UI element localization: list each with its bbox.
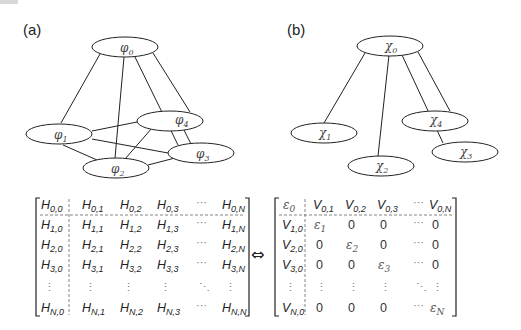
matrix_H-cell-2-0: H2,0 <box>41 238 63 254</box>
matrix_V-cell-2-5: 0 <box>432 238 439 252</box>
matrix_H-cell-4-0: ⋮ <box>44 281 55 293</box>
matrix_H-cell-2-1: H2,1 <box>82 238 104 254</box>
edge-chi0-chi2 <box>378 55 389 156</box>
matrix_H-cell-5-3: HN,3 <box>157 301 180 317</box>
edge-phi2-phi4 <box>125 128 152 159</box>
matrix_V-cell-0-2: V0,2 <box>345 198 366 214</box>
matrix_H-cell-1-4: ··· <box>196 216 207 228</box>
matrix_V-cell-1-1: ε1 <box>314 218 326 234</box>
matrix_H-cell-2-5: H2,N <box>222 238 246 254</box>
matrix_V-cell-2-0: V2,0 <box>282 238 303 254</box>
matrix_V-cell-1-5: 0 <box>432 218 439 232</box>
panel-a-label: (a) <box>23 21 41 38</box>
matrix_V-cell-0-3: V0,3 <box>377 198 398 214</box>
matrix_V-cell-5-0: VN,0 <box>282 301 304 317</box>
matrix_V-cell-3-2: 0 <box>348 258 355 272</box>
matrix_H-cell-3-0: H3,0 <box>41 258 63 274</box>
matrix-h-right-bracket <box>245 198 249 316</box>
edge-phi1-phi3 <box>92 139 168 153</box>
matrix_H-cell-2-2: H2,2 <box>120 238 142 254</box>
panel-b-label: (b) <box>287 21 305 38</box>
matrix_V-cell-4-0: ⋮ <box>285 281 296 293</box>
equivalence-arrow-icon: ⇔ <box>251 245 264 264</box>
matrix_V-cell-5-3: 0 <box>380 301 387 315</box>
matrix_H-cell-1-1: H1,1 <box>82 218 104 234</box>
matrix_H-cell-2-3: H2,3 <box>157 238 179 254</box>
panel-b: (b) χ0 χ1 χ2 χ3 χ4 <box>287 21 498 176</box>
edge-phi2-phi3 <box>148 158 175 165</box>
matrix_H-cell-0-2: H0,2 <box>120 198 142 214</box>
edge-phi0-phi3 <box>135 57 178 145</box>
matrix_V-cell-2-2: ε2 <box>346 238 358 254</box>
matrix_H-cell-3-2: H3,2 <box>120 258 142 274</box>
matrix_V-cell-0-1: V0,1 <box>313 198 334 214</box>
matrix_H-cell-1-2: H1,2 <box>120 218 142 234</box>
matrix_H-cell-1-3: H1,3 <box>157 218 179 234</box>
matrix_H-cell-4-2: ⋮ <box>123 281 134 293</box>
matrix-v: ε0V0,1V0,2V0,3···V0,NV1,0ε100···0V2,00ε2… <box>275 196 456 317</box>
matrix_H-cell-3-5: H3,N <box>222 258 246 274</box>
panel-a: (a) φ0 φ1 φ2 φ3 φ4 <box>23 21 234 178</box>
matrix_H-cell-3-1: H3,1 <box>82 258 104 274</box>
matrix_V-cell-3-3: ε3 <box>378 258 390 274</box>
matrix_H-cell-4-3: ⋮ <box>160 281 171 293</box>
matrix_H-cell-0-3: H0,3 <box>157 198 179 214</box>
matrix_H-cell-5-1: HN,1 <box>82 301 105 317</box>
matrix-v-cells: ε0V0,1V0,2V0,3···V0,NV1,0ε100···0V2,00ε2… <box>282 196 452 317</box>
matrix_H-cell-3-4: ··· <box>196 256 207 268</box>
matrix_H-cell-0-4: ··· <box>196 196 207 208</box>
matrix_V-cell-4-5: ⋮ <box>432 281 443 293</box>
matrix_V-cell-5-1: 0 <box>316 301 323 315</box>
matrix_V-cell-3-5: 0 <box>432 258 439 272</box>
matrix_V-cell-2-1: 0 <box>316 238 323 252</box>
matrix_H-cell-5-2: HN,2 <box>120 301 143 317</box>
edge-phi1-phi4 <box>92 122 137 131</box>
matrix_H-cell-0-1: H0,1 <box>82 198 104 214</box>
matrix_V-cell-2-3: 0 <box>380 238 387 252</box>
matrix_V-cell-4-3: ⋮ <box>380 281 391 293</box>
matrix_V-cell-0-5: V0,N <box>429 198 452 214</box>
matrix_H-cell-4-5: ⋮ <box>225 281 236 293</box>
matrix_H-cell-5-4: ··· <box>196 299 207 311</box>
matrix_V-cell-3-4: ··· <box>413 256 424 268</box>
edge-phi0-phi4 <box>153 53 190 112</box>
matrix_H-cell-5-5: HN,N <box>222 301 247 317</box>
edge-phi0-phi1 <box>61 54 100 123</box>
matrix_V-cell-3-0: V3,0 <box>282 258 303 274</box>
edge-chi0-chi1 <box>324 53 365 123</box>
matrix_H-cell-2-4: ··· <box>196 236 207 248</box>
matrix_H-cell-0-0: H0,0 <box>41 198 63 214</box>
matrix_H-cell-4-1: ⋮ <box>85 281 96 293</box>
matrix_H-cell-0-5: H0,N <box>222 198 246 214</box>
matrix_V-cell-1-2: 0 <box>348 218 355 232</box>
matrix_V-cell-3-1: 0 <box>316 258 323 272</box>
matrix_H-cell-1-0: H1,0 <box>41 218 63 234</box>
matrix_V-cell-2-4: ··· <box>413 236 424 248</box>
edge-chi0-chi4 <box>418 52 450 111</box>
matrix-v-left-bracket <box>275 198 279 316</box>
matrix_V-cell-4-2: ⋮ <box>348 281 359 293</box>
matrix_H-cell-3-3: H3,3 <box>157 258 179 274</box>
matrix-h: H0,0H0,1H0,2H0,3···H0,NH1,0H1,1H1,2H1,3·… <box>36 196 249 317</box>
matrix_V-cell-4-1: ⋮ <box>316 281 327 293</box>
matrix_V-cell-5-2: 0 <box>348 301 355 315</box>
node-phi4 <box>137 111 203 131</box>
matrix_V-cell-5-4: ··· <box>413 299 424 311</box>
matrix_H-cell-4-4: ⋱ <box>199 281 210 293</box>
edge-phi1-phi2 <box>63 145 97 160</box>
matrix_V-cell-1-0: V1,0 <box>282 218 303 234</box>
matrix-h-cells: H0,0H0,1H0,2H0,3···H0,NH1,0H1,1H1,2H1,3·… <box>41 196 247 317</box>
matrix_V-cell-1-3: 0 <box>380 218 387 232</box>
matrix_V-cell-5-5: εN <box>430 301 445 317</box>
matrix_V-cell-0-0: ε0 <box>283 198 295 214</box>
matrix-v-right-bracket <box>452 198 456 316</box>
matrix_H-cell-5-0: HN,0 <box>41 301 64 317</box>
matrix_H-cell-1-5: H1,N <box>222 218 246 234</box>
diagram-canvas: (a) φ0 φ1 φ2 φ3 φ4 (b <box>0 0 521 330</box>
matrix_V-cell-0-4: ··· <box>413 196 424 208</box>
matrix_V-cell-1-4: ··· <box>413 216 424 228</box>
edge-phi0-phi2 <box>115 57 124 158</box>
edge-phi4-phi3-hint <box>184 130 191 144</box>
matrix-h-left-bracket <box>36 198 40 316</box>
matrix_V-cell-4-4: ⋱ <box>416 281 427 293</box>
